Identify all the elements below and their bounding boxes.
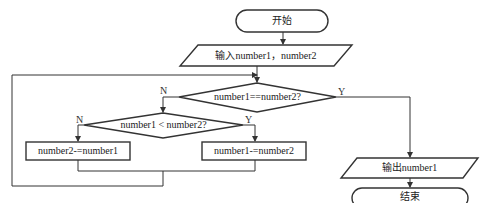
input-label: 输入number1，number2: [180, 50, 352, 62]
edge-equal-no: [163, 97, 179, 112]
cond-equal-label: number1==number2?: [179, 91, 336, 103]
equal-yes-label: Y: [338, 87, 345, 97]
end-label: 结束: [352, 191, 468, 203]
edge-less-yes: [243, 125, 255, 141]
less-no-label: N: [76, 115, 83, 125]
edge-merge: [78, 160, 255, 171]
proc-sub1-label: number1-=number2: [202, 145, 306, 157]
proc-sub2-label: number2-=number1: [26, 145, 130, 157]
equal-no-label: N: [160, 86, 167, 96]
edge-equal-yes: [336, 97, 410, 157]
less-yes-label: Y: [245, 115, 252, 125]
start-label: 开始: [236, 15, 328, 27]
output-label: 输出number1: [341, 162, 478, 174]
cond-less-label: number1 < number2?: [84, 119, 243, 131]
